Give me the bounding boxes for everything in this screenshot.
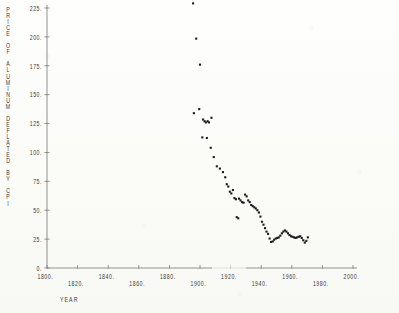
x-tick-label: 1960. [282,272,298,280]
data-point [256,209,258,211]
data-point [216,165,218,167]
y-tick-label: 50. [20,206,42,214]
data-point [222,171,224,173]
y-tick-label: 25. [20,235,42,243]
y-axis-title-char: I [7,199,8,207]
data-point [243,202,245,204]
data-point [237,217,239,219]
data-point [258,211,260,213]
data-point [301,237,303,239]
y-axis-title-char: E [6,29,9,37]
x-tick-label: 1860. [129,279,145,287]
y-tick-label: 200. [20,33,42,41]
data-point [232,189,234,191]
x-tick-label: 1800. [38,272,54,280]
data-point [235,198,237,200]
data-point [210,147,212,149]
data-point [199,64,201,66]
x-tick-label: 2000. [344,272,360,280]
data-point [224,176,226,178]
data-point [261,221,263,223]
y-tick-label: 0. [20,264,42,272]
data-point [195,38,197,40]
data-point [305,240,307,242]
y-tick-label: 100. [20,148,42,156]
data-point [269,237,271,239]
x-tick-label: 1880. [160,272,176,280]
data-point [302,239,304,241]
data-point [226,183,228,185]
data-point [210,117,212,119]
y-tick-label: 75. [20,177,42,185]
x-tick-label: 1920. [221,272,237,280]
data-point [205,121,207,123]
data-point [206,137,208,139]
data-point [219,168,221,170]
data-point [201,136,203,138]
data-point [249,201,251,203]
data-points-group [192,2,309,243]
data-point [227,185,229,187]
data-point [267,233,269,235]
y-axis-title-char: Y [6,174,9,182]
data-point [193,112,195,114]
data-point [259,216,261,218]
data-point [208,121,210,123]
x-tick-label: 1940. [252,279,268,287]
y-axis-title: PRICE.OF.ALUMINUM.DEFLATED.BY.CPI [3,6,13,206]
plot-canvas [0,0,399,313]
axes-group [44,5,357,269]
data-point [279,235,281,237]
data-point [246,195,248,197]
x-tick-label: 1840. [99,272,115,280]
y-tick-label: 150. [20,91,42,99]
data-point [198,108,200,110]
data-point [266,231,268,233]
y-tick-label: 125. [20,120,42,128]
data-point [230,192,232,194]
x-axis-title: YEAR [60,295,79,303]
x-tick-label: 1820. [68,279,84,287]
x-tick-label: 1900. [191,279,207,287]
data-point [262,224,264,226]
y-axis-title-char: D [6,156,10,164]
y-tick-label: 175. [20,62,42,70]
y-axis-title-char: F [6,47,9,55]
x-tick-label: 1980. [313,279,329,287]
y-tick-label: 225. [20,4,42,12]
data-point [264,227,266,229]
data-point [307,236,309,238]
data-point [213,156,215,158]
y-axis-title-char: M [6,102,10,110]
data-point [192,2,194,4]
